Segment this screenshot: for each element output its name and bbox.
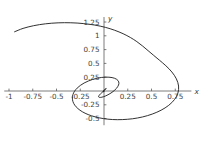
- x-tick-label: -0.5: [49, 92, 63, 101]
- y-tick-label: -0.25: [81, 100, 100, 109]
- y-tick-label: 0.75: [83, 45, 99, 54]
- x-axis-tick-labels: -1-0.75-0.5-0.250.250.50.75: [5, 92, 183, 101]
- x-tick-label: -0.75: [23, 92, 42, 101]
- y-axis-label: y: [107, 14, 113, 23]
- y-tick-label: 0.5: [88, 59, 99, 68]
- x-tick-label: 0.5: [146, 92, 157, 101]
- x-tick-label: -1: [5, 92, 12, 101]
- y-tick-label: 1: [95, 31, 100, 40]
- y-tick-label: -0.5: [85, 114, 99, 123]
- y-axis-tick-labels: 1.2510.750.50.25-0.25-0.5: [81, 18, 100, 124]
- x-tick-label: 0.75: [167, 92, 183, 101]
- x-tick-label: -0.25: [71, 92, 90, 101]
- spiral-plot-figure: -1-0.75-0.5-0.250.250.50.75 1.2510.750.5…: [0, 0, 209, 143]
- x-axis-label: x: [193, 87, 199, 96]
- y-tick-label: 0.25: [83, 73, 99, 82]
- y-tick-label: 1.25: [83, 18, 99, 27]
- plot-canvas: -1-0.75-0.5-0.250.250.50.75 1.2510.750.5…: [0, 0, 209, 143]
- x-tick-label: 0.25: [120, 92, 136, 101]
